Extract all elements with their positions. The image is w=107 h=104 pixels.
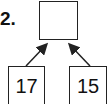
right-arrow-icon	[70, 45, 90, 66]
right-addend-box: 15	[69, 66, 107, 104]
left-addend-box: 17	[8, 66, 45, 104]
left-arrow-icon	[26, 45, 46, 66]
